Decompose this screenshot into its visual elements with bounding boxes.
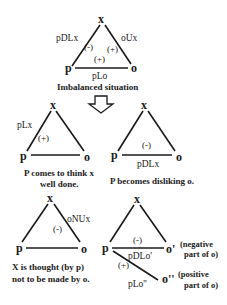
node-o: o bbox=[176, 150, 182, 164]
sign-o-x: (+) bbox=[107, 44, 118, 54]
triangle-p-dislikes-o: x p o (-) pDLx P becomes disliking o. bbox=[110, 98, 194, 186]
note-positive-line-1: (positive bbox=[178, 269, 209, 279]
edge-label-plo: pLo bbox=[92, 71, 108, 81]
sign-p-x: (+) bbox=[38, 133, 49, 143]
node-x: x bbox=[50, 98, 56, 112]
triangle-p-likes-x: x p o pLx (+) P comes to think x well do… bbox=[17, 98, 95, 189]
node-p: p bbox=[102, 241, 109, 255]
caption-line-1: P comes to think x bbox=[24, 168, 95, 178]
triangle-o-not-unit-x: x p o oNUx (-) X is thought (by p) not t… bbox=[12, 191, 90, 284]
down-arrow-icon bbox=[89, 96, 113, 113]
edge-label-plx: pLx bbox=[17, 120, 33, 130]
node-x: x bbox=[47, 191, 53, 205]
edge-o-x bbox=[148, 111, 175, 151]
sign-p-o1: (-) bbox=[133, 235, 142, 245]
imbalanced-triangle: x p o pDLx oUx (-) (+) (+) pLo Imbalance… bbox=[56, 12, 138, 92]
node-p: p bbox=[65, 61, 72, 75]
sign-p-o: (-) bbox=[142, 140, 151, 150]
node-p: p bbox=[111, 148, 118, 162]
node-o: o bbox=[131, 61, 137, 75]
triangle-split-o: x p o' o'' (-) pDLo' (+) pLo'' (negative… bbox=[102, 192, 218, 290]
caption: P becomes disliking o. bbox=[110, 176, 194, 186]
node-p: p bbox=[16, 241, 23, 255]
edge-o1-x bbox=[140, 205, 166, 242]
edge-label-pdlx: pDLx bbox=[137, 159, 159, 169]
node-o-prime: o' bbox=[166, 242, 175, 256]
sign-o-x: (-) bbox=[53, 224, 62, 234]
sign-p-x: (-) bbox=[84, 42, 93, 52]
edge-o-x bbox=[56, 111, 84, 151]
caption-line-2: well done. bbox=[40, 179, 79, 189]
note-positive-line-2: part of o) bbox=[184, 280, 218, 290]
edge-p-x bbox=[22, 204, 48, 242]
edge-p-x bbox=[118, 111, 143, 151]
edge-label-onux: oNUx bbox=[67, 214, 90, 224]
note-negative-line-2: part of o) bbox=[184, 249, 218, 259]
note-negative-line-1: (negative bbox=[180, 239, 213, 249]
caption-line-1: X is thought (by p) bbox=[12, 262, 84, 272]
edge-p-x bbox=[27, 111, 51, 151]
edge-p-x bbox=[110, 205, 134, 242]
node-x: x bbox=[134, 192, 140, 206]
node-x: x bbox=[98, 12, 104, 26]
node-o: o bbox=[81, 242, 87, 256]
edge-label-oux: oUx bbox=[121, 33, 138, 43]
edge-label-plo-double-prime: pLo'' bbox=[128, 279, 147, 289]
node-o-double-prime: o'' bbox=[162, 272, 175, 286]
sign-p-o: (+) bbox=[94, 54, 105, 64]
edge-label-pdlx: pDLx bbox=[56, 33, 78, 43]
node-x: x bbox=[141, 98, 147, 112]
caption-line-2: not to be made by o. bbox=[12, 274, 90, 284]
caption-imbalanced: Imbalanced situation bbox=[57, 82, 138, 92]
node-o: o bbox=[84, 150, 90, 164]
sign-p-o2: (+) bbox=[118, 260, 129, 270]
edge-label-pdlo-prime: pDLo' bbox=[128, 251, 152, 261]
node-p: p bbox=[20, 149, 27, 163]
balance-theory-diagram: x p o pDLx oUx (-) (+) (+) pLo Imbalance… bbox=[0, 0, 227, 305]
